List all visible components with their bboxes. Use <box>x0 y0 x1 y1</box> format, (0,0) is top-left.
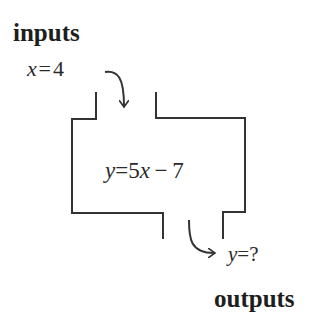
rule-expression: y=5x − 7 <box>105 159 184 182</box>
output-arrow-icon <box>189 220 214 253</box>
output-expression: y=? <box>228 244 259 265</box>
input-equals: = <box>39 56 51 81</box>
input-arrow-icon <box>105 72 124 106</box>
input-variable: x <box>27 56 37 81</box>
rule-coef: 5 <box>128 158 140 183</box>
rule-equals: = <box>115 158 128 183</box>
function-machine-diagram: inputs x = 4 y=5x − 7 y=? outputs <box>0 0 324 332</box>
output-equals: = <box>237 242 249 266</box>
rule-op: − <box>155 158 168 183</box>
output-variable: y <box>228 242 237 266</box>
output-value: ? <box>249 242 258 266</box>
input-expression: x = 4 <box>27 58 64 80</box>
rule-lhs: y <box>105 158 115 183</box>
inputs-label: inputs <box>13 20 80 45</box>
outputs-label: outputs <box>214 286 295 311</box>
rule-var: x <box>140 158 150 183</box>
input-value: 4 <box>53 56 64 81</box>
rule-const: 7 <box>172 158 184 183</box>
